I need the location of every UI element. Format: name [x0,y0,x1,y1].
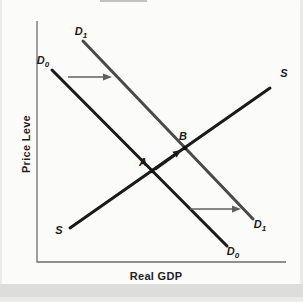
label-s-top: S [280,67,288,79]
label-point-a: A [138,156,147,168]
figure-scan: D1 D0 S S D1 D0 A B Price Leve Real GDP [0,0,303,302]
supply-demand-diagram: D1 D0 S S D1 D0 A B Price Leve Real GDP [0,0,303,302]
top-smudge-artifact [100,0,147,2]
bottom-band-artifact [0,284,303,297]
point-b-dot [183,146,187,150]
point-a-dot [150,169,154,173]
x-axis-title: Real GDP [130,270,183,282]
label-s-bottom: S [55,224,63,236]
y-axis-title: Price Leve [20,115,32,173]
label-point-b: B [179,130,187,142]
figure-background [2,0,300,284]
